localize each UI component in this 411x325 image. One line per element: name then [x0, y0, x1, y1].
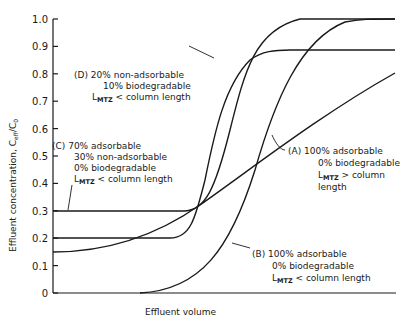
- y-tick-0.2: 0.2: [32, 233, 48, 244]
- annotation-a: (A) 100% adsorbable 0% biodegradable LMT…: [288, 146, 400, 192]
- annotation-c: (C) 70% adsorbable 30% non-adsorbable 0%…: [52, 141, 173, 186]
- y-tick-labels: 0 0.1 0.2 0.3 0.4 0.5 0.6 0.7 0.8 0.9 1.…: [32, 14, 48, 299]
- annotation-a-line1: (A) 100% adsorbable: [288, 146, 383, 156]
- annotation-a-line4: length: [318, 182, 347, 192]
- annotation-d-line3: LMTZ < column length: [92, 92, 191, 104]
- leader-c: [68, 185, 72, 210]
- y-tick-0.3: 0.3: [32, 206, 48, 217]
- y-tick-0.7: 0.7: [32, 96, 48, 107]
- annotation-c-line3: 0% biodegradable: [74, 163, 156, 173]
- y-tick-0.8: 0.8: [32, 69, 48, 80]
- y-tick-0.4: 0.4: [32, 178, 48, 189]
- y-tick-0.6: 0.6: [32, 124, 48, 135]
- annotation-b-line2: 0% biodegradable: [272, 261, 354, 271]
- annotation-c-line4: LMTZ < column length: [74, 174, 173, 186]
- leader-d: [189, 46, 214, 58]
- y-tick-0.1: 0.1: [32, 261, 48, 272]
- annotation-c-line2: 30% non-adsorbable: [74, 152, 168, 162]
- annotation-d: (D) 20% non-adsorbable 10% biodegradable…: [74, 70, 191, 104]
- breakthrough-chart: 0 0.1 0.2 0.3 0.4 0.5 0.6 0.7 0.8 0.9 1.…: [0, 0, 411, 325]
- leader-b: [232, 243, 250, 248]
- annotation-a-line3: LMTZ > column: [318, 170, 385, 182]
- x-axis-title: Effluent volume: [145, 307, 217, 317]
- annotation-b: (B) 100% adsorbable 0% biodegradable LMT…: [252, 249, 371, 285]
- y-tick-0.9: 0.9: [32, 41, 48, 52]
- y-tick-0: 0: [42, 288, 48, 299]
- annotation-a-line2: 0% biodegradable: [318, 158, 400, 168]
- annotation-b-line1: (B) 100% adsorbable: [252, 249, 347, 259]
- annotation-b-line3: LMTZ < column length: [272, 273, 371, 285]
- y-tick-1.0: 1.0: [32, 14, 48, 25]
- annotation-d-line1: (D) 20% non-adsorbable: [74, 70, 184, 80]
- annotation-d-line2: 10% biodegradable: [103, 81, 191, 91]
- y-tick-0.5: 0.5: [32, 151, 48, 162]
- annotation-c-line1: (C) 70% adsorbable: [52, 141, 142, 151]
- y-axis-title: Effluent concentration, Ceff/C0: [8, 119, 19, 252]
